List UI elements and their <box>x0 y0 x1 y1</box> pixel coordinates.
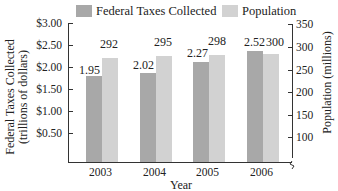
bar-population-2003 <box>102 58 118 162</box>
value-label-population-2005: 298 <box>208 35 226 47</box>
bar-taxes-2005 <box>193 62 209 162</box>
legend-label-taxes: Federal Taxes Collected <box>96 4 216 18</box>
y-right-tick: 100 <box>296 131 313 143</box>
legend-swatch-taxes <box>76 5 92 17</box>
y-right-axis-title: Population (millions) <box>321 20 334 145</box>
y-right-tickmark <box>288 24 293 25</box>
y-right-tickmark <box>288 137 293 138</box>
value-label-taxes-2006: 2.52 <box>244 36 265 48</box>
bar-taxes-2006 <box>247 51 263 162</box>
x-tick-2006: 2006 <box>250 166 273 178</box>
bar-taxes-2004 <box>140 73 156 162</box>
value-label-taxes-2005: 2.27 <box>187 47 208 59</box>
y-right-tickmark <box>288 115 293 116</box>
value-label-taxes-2004: 2.02 <box>133 59 154 71</box>
y-right-tickmark <box>288 47 293 48</box>
legend-label-population: Population <box>242 4 296 18</box>
bar-population-2005 <box>209 55 225 162</box>
legend-swatch-population <box>222 5 238 17</box>
y-left-axis-title: Federal Taxes Collected (trillions of do… <box>4 32 30 162</box>
bar-population-2004 <box>156 56 172 162</box>
x-tick-2005: 2005 <box>196 166 219 178</box>
bar-taxes-2003 <box>86 76 102 162</box>
y-right-tick: 300 <box>296 41 313 53</box>
x-tick-2004: 2004 <box>143 166 166 178</box>
y-right-tick: 200 <box>296 86 313 98</box>
y-left-tick: $3.00 <box>16 17 62 29</box>
bar-population-2006 <box>263 54 279 162</box>
y-right-tickmark <box>288 92 293 93</box>
x-axis-title: Year <box>170 179 192 191</box>
axis-break-icon <box>288 155 296 163</box>
value-label-population-2006: 300 <box>266 36 284 48</box>
y-left-axis-title-line2: (trillions of dollars) <box>17 32 30 162</box>
value-label-population-2003: 292 <box>100 38 118 50</box>
x-tick-2003: 2003 <box>89 166 112 178</box>
y-right-tickmark <box>288 70 293 71</box>
y-right-tick: 250 <box>296 64 313 76</box>
y-right-tick: 350 <box>296 18 313 30</box>
value-label-population-2004: 295 <box>154 36 172 48</box>
y-right-tick: 150 <box>296 109 313 121</box>
value-label-taxes-2003: 1.95 <box>79 64 100 76</box>
